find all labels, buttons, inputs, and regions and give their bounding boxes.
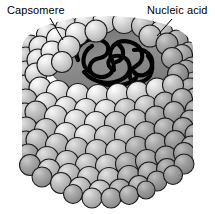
label-capsomere: Capsomere <box>7 4 65 16</box>
label-nucleic-acid: Nucleic acid <box>147 4 208 16</box>
virus-capsid-figure: Capsomere Nucleic acid <box>0 0 215 214</box>
capsid-illustration <box>0 0 215 214</box>
